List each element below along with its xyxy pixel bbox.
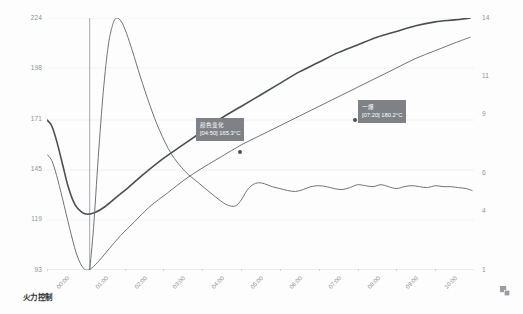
annotation-title: 一爆 xyxy=(362,103,402,111)
x-tick-label: 04:00 xyxy=(211,275,226,290)
x-tick-mark xyxy=(396,269,397,271)
x-tick-mark xyxy=(47,269,48,271)
expand-icon[interactable] xyxy=(500,282,510,292)
y-left-tick-label: 224 xyxy=(12,15,42,22)
x-tick-label: 01:00 xyxy=(94,275,109,290)
x-tick-mark xyxy=(358,269,359,271)
x-tick-label: 03:00 xyxy=(172,275,187,290)
x-tick-label: 10:00 xyxy=(444,275,459,290)
annotation-value: [04:50] 165.3°C xyxy=(200,129,240,137)
chart-caption: 火力控制 xyxy=(23,291,52,302)
x-tick-mark xyxy=(435,269,436,271)
x-tick-label: 05:00 xyxy=(249,275,264,290)
x-tick-label: 02:00 xyxy=(133,275,148,290)
x-tick-label: 00:00 xyxy=(55,275,70,290)
plot-svg xyxy=(47,18,474,270)
series-line xyxy=(47,37,470,270)
y-left-tick-label: 93 xyxy=(12,267,42,274)
annotation-value: [07:20] 180.2°C xyxy=(362,111,402,119)
x-tick-mark xyxy=(202,269,203,271)
y-left-tick-label: 145 xyxy=(12,166,42,173)
y-right-tick-label: 9 xyxy=(482,111,512,118)
y-left-tick-label: 119 xyxy=(12,216,42,223)
annotation-title: 颜色变化 xyxy=(200,121,240,129)
y-left-tick-label: 171 xyxy=(12,116,42,123)
x-tick-mark xyxy=(319,269,320,271)
annotation-marker-dot[interactable] xyxy=(238,150,242,154)
roast-curve-chart-card: 93119145171198224 14691114 00:0001:0002:… xyxy=(0,0,523,314)
x-tick-label: 08:00 xyxy=(366,275,381,290)
annotation-color-change[interactable]: 颜色变化[04:50] 165.3°C xyxy=(196,118,244,141)
y-right-tick-label: 11 xyxy=(482,73,512,80)
x-tick-mark xyxy=(163,269,164,271)
x-tick-label: 09:00 xyxy=(405,275,420,290)
y-right-tick-label: 1 xyxy=(482,267,512,274)
x-tick-mark xyxy=(86,269,87,271)
y-right-tick-label: 14 xyxy=(482,15,512,22)
plot-area[interactable] xyxy=(47,18,474,270)
y-right-tick-label: 6 xyxy=(482,170,512,177)
x-tick-mark xyxy=(280,269,281,271)
y-right-tick-label: 4 xyxy=(482,208,512,215)
annotation-marker-dot[interactable] xyxy=(353,118,357,122)
series-line xyxy=(90,18,472,270)
x-tick-label: 07:00 xyxy=(327,275,342,290)
y-left-tick-label: 198 xyxy=(12,65,42,72)
annotation-first-crack[interactable]: 一爆[07:20] 180.2°C xyxy=(358,100,406,123)
x-tick-label: 06:00 xyxy=(288,275,303,290)
series-line xyxy=(47,18,470,214)
series-group xyxy=(47,18,472,270)
gridlines xyxy=(47,18,474,270)
x-tick-mark xyxy=(125,269,126,271)
x-tick-mark xyxy=(241,269,242,271)
